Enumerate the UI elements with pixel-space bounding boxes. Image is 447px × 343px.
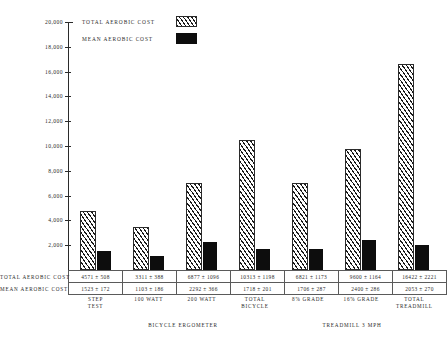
plot-area: 2,0004,0006,0008,00010,00012,00014,00016…	[68, 22, 440, 270]
table-row-label: MEAN AEROBIC COST	[0, 283, 69, 295]
bar-group	[281, 22, 334, 270]
x-axis-category-label: TOTAL BICYCLE	[228, 296, 281, 309]
bars-layer	[69, 22, 440, 270]
data-value-table: TOTAL AEROBIC COST4571 ± 5083311 ± 38868…	[0, 270, 447, 295]
y-axis-tick-label: 12,000	[45, 118, 63, 124]
y-axis-tick-label: 8,000	[48, 168, 63, 174]
bar-total	[345, 149, 361, 270]
x-axis-category-label: 8% GRADE	[282, 296, 335, 309]
x-axis-category-labels: STEP TEST100 WATT200 WATTTOTAL BICYCLE8%…	[69, 296, 441, 309]
bar-mean	[150, 256, 164, 270]
table-cell-value: 1523 ± 172	[69, 283, 123, 295]
bar-total	[133, 227, 149, 270]
x-axis-category-label: TOTAL TREADMILL	[388, 296, 441, 309]
table-cell-value: 2053 ± 270	[393, 283, 447, 295]
table-cell-value: 2400 ± 286	[339, 283, 393, 295]
table-cell-value: 3311 ± 388	[123, 271, 177, 283]
x-axis-category-label: 16% GRADE	[335, 296, 388, 309]
bar-total	[80, 211, 96, 270]
table-cell-value: 1706 ± 287	[285, 283, 339, 295]
bar-mean	[415, 245, 429, 270]
y-axis-tick-label: 20,000	[45, 19, 63, 25]
table-cell-value: 1103 ± 186	[123, 283, 177, 295]
group-label-bicycle-ergometer: BICYCLE ERGOMETER	[103, 322, 263, 328]
y-axis-tick-label: 14,000	[45, 93, 63, 99]
bar-group	[387, 22, 440, 270]
table-row: TOTAL AEROBIC COST4571 ± 5083311 ± 38868…	[0, 271, 447, 283]
table-cell-value: 2292 ± 366	[177, 283, 231, 295]
bar-mean	[362, 240, 376, 270]
table-cell-value: 6877 ± 1096	[177, 271, 231, 283]
y-axis-tick-label: 6,000	[48, 193, 63, 199]
bar-total	[239, 140, 255, 270]
bar-group	[175, 22, 228, 270]
bar-mean	[203, 242, 217, 270]
x-axis-category-label: STEP TEST	[69, 296, 122, 309]
group-label-treadmill: TREADMILL 3 MPH	[277, 322, 427, 328]
y-axis-tick-label: 4,000	[48, 217, 63, 223]
table-cell-value: 16422 ± 2221	[393, 271, 447, 283]
bar-mean	[97, 251, 111, 270]
x-axis-category-label: 200 WATT	[175, 296, 228, 309]
x-axis-category-label: 100 WATT	[122, 296, 175, 309]
table-row-label: TOTAL AEROBIC COST	[0, 271, 69, 283]
table-row: MEAN AEROBIC COST1523 ± 1721103 ± 186229…	[0, 283, 447, 295]
bar-group	[69, 22, 122, 270]
bar-group	[122, 22, 175, 270]
bar-mean	[256, 249, 270, 270]
y-axis-tick-label: 18,000	[45, 44, 63, 50]
bar-mean	[309, 249, 323, 270]
table-cell-value: 9600 ± 1164	[339, 271, 393, 283]
table-cell-value: 10313 ± 1198	[231, 271, 285, 283]
bar-total	[186, 183, 202, 270]
bar-group	[334, 22, 387, 270]
table-cell-value: 1718 ± 201	[231, 283, 285, 295]
y-axis-tick-label: 10,000	[45, 143, 63, 149]
bar-total	[292, 183, 308, 270]
aerobic-cost-bar-chart: TOTAL AEROBIC COST MEAN AEROBIC COST 2,0…	[0, 0, 447, 343]
bar-total	[398, 64, 414, 270]
bar-group	[228, 22, 281, 270]
y-axis-tick-label: 16,000	[45, 69, 63, 75]
table-cell-value: 6821 ± 1173	[285, 271, 339, 283]
y-axis-tick-label: 2,000	[48, 242, 63, 248]
table-cell-value: 4571 ± 508	[69, 271, 123, 283]
